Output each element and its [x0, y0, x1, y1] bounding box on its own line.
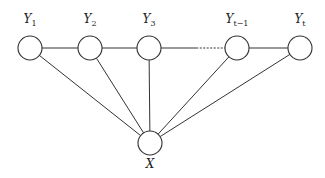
edge-x-yt [160, 54, 290, 136]
graph-diagram [0, 0, 325, 178]
node-label-y1: Y1 [23, 12, 36, 28]
node-y2 [78, 36, 102, 60]
node-label-y2: Y2 [83, 12, 96, 28]
edge-x-y3 [149, 60, 150, 131]
node-yt-1 [225, 36, 249, 60]
edge-x-yt-1 [158, 57, 229, 134]
node-label-yt-1: Yt−1 [226, 12, 249, 28]
node-y1 [18, 36, 42, 60]
node-label-x: X [146, 157, 155, 171]
edge-x-y2 [96, 58, 143, 133]
node-x [138, 131, 162, 155]
node-yt [288, 36, 312, 60]
node-label-yt: Yt [294, 12, 305, 28]
edge-x-y1 [39, 55, 140, 135]
node-label-y3: Y3 [142, 12, 155, 28]
node-y3 [137, 36, 161, 60]
